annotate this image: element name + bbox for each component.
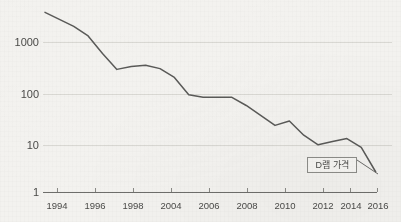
gridlines [43,43,392,146]
x-tick-label-2004: 2004 [160,200,181,211]
x-tick-label-2006: 2006 [198,200,219,211]
callout-leader-line [357,160,378,174]
x-tick-label-1998: 1998 [122,200,143,211]
series-line-dram-price [45,12,376,171]
x-tick-label-2014: 2014 [340,200,361,211]
y-tick-label-10: 10 [27,139,39,151]
x-tick-label-2010: 2010 [274,200,295,211]
x-tick-label-1994: 1994 [46,200,67,211]
dram-price-line-chart: 1000 100 10 1 1994 1996 1998 2004 2006 2… [0,0,401,222]
x-tick-label-2012: 2012 [312,200,333,211]
x-tick-label-2016: 2016 [367,200,388,211]
x-axis-ticks [58,188,378,192]
y-tick-label-100: 100 [21,88,39,100]
callout-label: D램 가격 [316,159,349,170]
x-axis-labels: 1994 1996 1998 2004 2006 2008 2010 2012 … [46,200,388,211]
chart-screenshot: 1000 100 10 1 1994 1996 1998 2004 2006 2… [0,0,401,222]
x-tick-label-2008: 2008 [236,200,257,211]
x-tick-label-1996: 1996 [84,200,105,211]
y-tick-label-1: 1 [33,186,39,198]
y-axis-labels: 1000 100 10 1 [15,36,39,198]
y-tick-label-1000: 1000 [15,36,39,48]
